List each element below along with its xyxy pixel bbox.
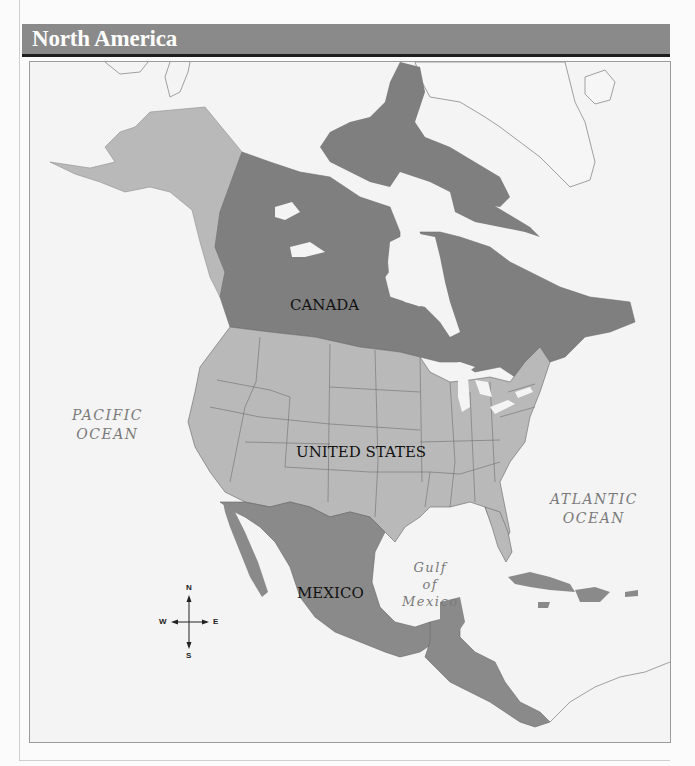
puerto-rico bbox=[625, 590, 638, 597]
compass-east: E bbox=[213, 617, 218, 626]
label-pacific-ocean: PACIFIC OCEAN bbox=[72, 406, 143, 444]
label-united-states: UNITED STATES bbox=[296, 443, 426, 461]
alaska bbox=[50, 107, 242, 297]
compass-rose: N S E W bbox=[167, 587, 227, 657]
label-gulf-of-mexico: Gulf of Mexico bbox=[402, 559, 459, 610]
compass-south: S bbox=[186, 651, 191, 660]
iceland-outline bbox=[585, 70, 615, 104]
florida bbox=[485, 507, 512, 562]
page-title: North America bbox=[32, 26, 177, 52]
south-america-outline bbox=[550, 662, 670, 722]
label-mexico: MEXICO bbox=[297, 584, 364, 602]
compass-north: N bbox=[186, 583, 192, 592]
label-atlantic-ocean: ATLANTIC OCEAN bbox=[550, 490, 638, 528]
siberia-outline bbox=[105, 62, 190, 97]
label-canada: CANADA bbox=[290, 296, 359, 314]
north-america-map bbox=[30, 62, 670, 742]
hispaniola bbox=[575, 587, 610, 602]
cuba bbox=[508, 572, 575, 592]
header-bar: North America bbox=[22, 24, 670, 57]
map-canvas: CANADA UNITED STATES MEXICO PACIFIC OCEA… bbox=[29, 61, 671, 743]
compass-west: W bbox=[159, 617, 167, 626]
jamaica bbox=[538, 602, 550, 608]
